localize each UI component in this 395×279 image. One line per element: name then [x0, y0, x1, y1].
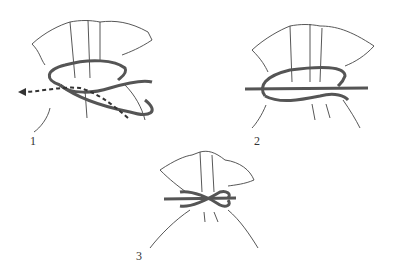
- knot-diagram: [0, 0, 395, 279]
- arrow-head-icon: [18, 88, 26, 96]
- step-3-knot: [164, 191, 236, 206]
- step-2-cord: [245, 68, 368, 101]
- step-3-label: 3: [136, 249, 142, 264]
- step-2-label: 2: [254, 134, 260, 149]
- step-1-label: 1: [30, 134, 36, 149]
